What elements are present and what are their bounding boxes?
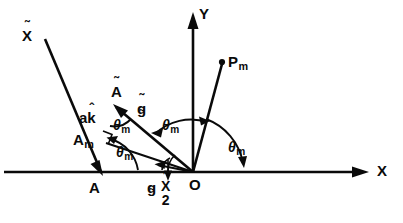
a-scalar: a bbox=[79, 109, 87, 126]
am-subscript: m bbox=[84, 138, 94, 150]
under-tilde-accent: ˜ bbox=[149, 188, 153, 201]
pm-line bbox=[193, 59, 225, 172]
pm-point-label: Pm bbox=[228, 54, 248, 69]
x-tilde-line bbox=[45, 39, 103, 176]
x-tilde-label: ˜ X bbox=[22, 28, 32, 43]
theta-symbol: θ bbox=[162, 117, 170, 133]
theta-symbol: θ bbox=[228, 139, 236, 155]
fraction-denominator: 2 bbox=[161, 193, 170, 207]
theta-m-label-at-a: θm bbox=[116, 145, 133, 159]
pm-subscript: m bbox=[238, 60, 248, 72]
theta-m-label-from-y: θm bbox=[162, 118, 179, 132]
g-tilde-label: ˜ g ˜ bbox=[137, 101, 146, 116]
tilde-accent: ˜ bbox=[114, 75, 119, 89]
origin-label: O bbox=[189, 177, 201, 192]
a-point-label: A bbox=[89, 180, 100, 195]
theta-subscript: m bbox=[124, 151, 133, 162]
theta-m-label-from-x: θm bbox=[228, 140, 245, 154]
theta-m-label-at-a-tilde: θm bbox=[113, 118, 130, 132]
under-tilde-accent: ˜ bbox=[139, 109, 143, 122]
a-k-hat-label: aˆk bbox=[79, 110, 96, 125]
diagram-canvas: Y X O ˜ X ˜ A aˆk Am A ˜ g ˜ g bbox=[0, 0, 403, 223]
theta-subscript: m bbox=[236, 146, 245, 157]
tilde-accent: ˜ bbox=[163, 171, 167, 184]
diagram-vector-graphics bbox=[0, 0, 403, 223]
arc-theta-m-from-Y bbox=[151, 117, 210, 138]
pm-base: P bbox=[228, 53, 238, 70]
x-axis-label: X bbox=[377, 163, 387, 178]
theta-subscript: m bbox=[170, 124, 179, 135]
tilde-accent: ˜ bbox=[25, 19, 30, 33]
a-tilde-label: ˜ A bbox=[111, 84, 122, 99]
theta-symbol: θ bbox=[116, 144, 124, 160]
am-base: A bbox=[73, 131, 84, 148]
hat-accent: ˆ bbox=[89, 102, 94, 116]
am-point-label: Am bbox=[73, 132, 94, 147]
half-x-tilde-label: ˜ X 2 bbox=[161, 179, 170, 208]
theta-subscript: m bbox=[121, 124, 130, 135]
y-axis bbox=[188, 12, 199, 172]
g-under-label: g ˜ bbox=[147, 180, 156, 195]
tilde-accent: ˜ bbox=[139, 92, 144, 106]
y-axis-label: Y bbox=[199, 6, 209, 21]
theta-symbol: θ bbox=[113, 117, 121, 133]
